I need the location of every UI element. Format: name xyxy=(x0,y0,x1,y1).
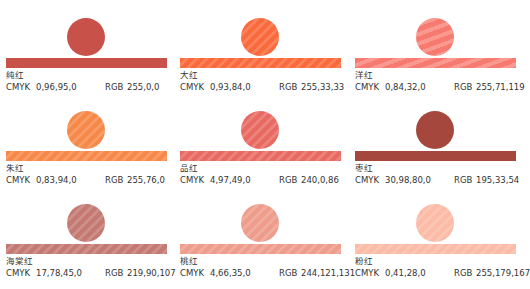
swatch-da-hong: 大红 CMYK 0,93,84,0 RGB 255,33,33 xyxy=(180,18,341,106)
color-circle xyxy=(241,18,279,56)
rgb-value: 219,90,107 xyxy=(127,268,176,279)
color-bar xyxy=(180,151,341,161)
color-circle xyxy=(416,204,454,242)
swatch-chun-hong: 纯红 CMYK 0,96,95,0 RGB 255,0,0 xyxy=(6,18,167,106)
swatch-yang-hong: 洋红 CMYK 0,84,32,0 RGB 255,71,119 xyxy=(355,18,516,106)
color-name: 海棠红 xyxy=(6,256,33,267)
color-bar xyxy=(355,244,516,254)
rgb-label: RGB xyxy=(454,82,472,93)
color-bar xyxy=(6,244,167,254)
color-circle xyxy=(241,111,279,149)
cmyk-label: CMYK xyxy=(6,175,30,186)
cmyk-label: CMYK xyxy=(6,82,30,93)
color-circle xyxy=(416,18,454,56)
rgb-label: RGB xyxy=(279,82,297,93)
color-name: 大红 xyxy=(180,70,198,81)
cmyk-label: CMYK xyxy=(180,82,204,93)
cmyk-label: CMYK xyxy=(355,268,379,279)
rgb-label: RGB xyxy=(279,268,297,279)
rgb-label: RGB xyxy=(105,82,123,93)
color-circle xyxy=(67,204,105,242)
cmyk-value: 0,83,94,0 xyxy=(36,175,77,186)
rgb-value: 255,71,119 xyxy=(476,82,525,93)
color-bar xyxy=(6,151,167,161)
rgb-label: RGB xyxy=(105,268,123,279)
rgb-value: 255,0,0 xyxy=(127,82,159,93)
cmyk-value: 0,41,28,0 xyxy=(385,268,426,279)
rgb-value: 255,33,33 xyxy=(301,82,344,93)
color-name: 粉红 xyxy=(355,256,373,267)
cmyk-value: 0,96,95,0 xyxy=(36,82,77,93)
color-bar xyxy=(180,58,341,68)
color-name: 朱红 xyxy=(6,163,24,174)
cmyk-label: CMYK xyxy=(6,268,30,279)
rgb-label: RGB xyxy=(454,175,472,186)
color-circle xyxy=(67,111,105,149)
rgb-label: RGB xyxy=(279,175,297,186)
color-name: 洋红 xyxy=(355,70,373,81)
swatch-zhu-hong: 朱红 CMYK 0,83,94,0 RGB 255,76,0 xyxy=(6,111,167,199)
color-bar xyxy=(6,58,167,68)
cmyk-value: 0,93,84,0 xyxy=(210,82,251,93)
rgb-value: 240,0,86 xyxy=(301,175,339,186)
color-name: 桃红 xyxy=(180,256,198,267)
cmyk-value: 17,78,45,0 xyxy=(36,268,82,279)
color-circle xyxy=(67,18,105,56)
color-bar xyxy=(355,58,516,68)
swatch-zao-hong: 枣红 CMYK 30,98,80,0 RGB 195,33,54 xyxy=(355,111,516,199)
swatch-hai-tang-hong: 海棠红 CMYK 17,78,45,0 RGB 219,90,107 xyxy=(6,204,167,289)
swatch-tao-hong: 桃红 CMYK 4,66,35,0 RGB 244,121,131 xyxy=(180,204,341,289)
cmyk-value: 0,84,32,0 xyxy=(385,82,426,93)
color-name: 品红 xyxy=(180,163,198,174)
rgb-value: 255,179,167 xyxy=(476,268,530,279)
rgb-label: RGB xyxy=(105,175,123,186)
cmyk-value: 4,97,49,0 xyxy=(210,175,251,186)
color-name: 枣红 xyxy=(355,163,373,174)
color-name: 纯红 xyxy=(6,70,24,81)
cmyk-value: 4,66,35,0 xyxy=(210,268,251,279)
rgb-label: RGB xyxy=(454,268,472,279)
cmyk-label: CMYK xyxy=(180,175,204,186)
color-circle xyxy=(241,204,279,242)
cmyk-label: CMYK xyxy=(180,268,204,279)
cmyk-label: CMYK xyxy=(355,175,379,186)
cmyk-label: CMYK xyxy=(355,82,379,93)
color-bar xyxy=(180,244,341,254)
swatch-pin-hong: 品红 CMYK 4,97,49,0 RGB 240,0,86 xyxy=(180,111,341,199)
cmyk-value: 30,98,80,0 xyxy=(385,175,431,186)
rgb-value: 255,76,0 xyxy=(127,175,165,186)
rgb-value: 244,121,131 xyxy=(301,268,355,279)
rgb-value: 195,33,54 xyxy=(476,175,519,186)
color-circle xyxy=(416,111,454,149)
color-bar xyxy=(355,151,516,161)
swatch-fen-hong: 粉红 CMYK 0,41,28,0 RGB 255,179,167 xyxy=(355,204,516,289)
